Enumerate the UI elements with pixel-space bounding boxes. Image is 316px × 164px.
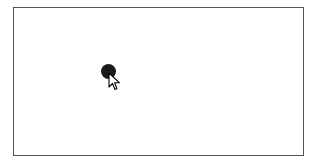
canvas-area[interactable]: [13, 7, 304, 156]
arrow-pointer-icon: [108, 72, 122, 92]
